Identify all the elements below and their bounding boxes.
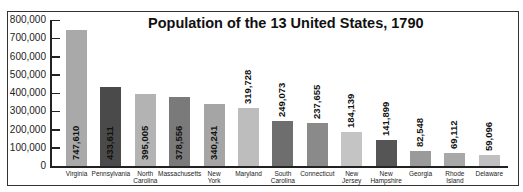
y-tick <box>50 38 60 40</box>
value-label: 340,241 <box>208 126 219 160</box>
y-tick <box>50 147 60 149</box>
value-label: 319,728 <box>242 69 253 103</box>
value-label: 184,139 <box>345 94 356 128</box>
value-label: 747,610 <box>70 126 81 160</box>
y-tick <box>50 20 60 22</box>
y-tick-label: 500,000 <box>2 69 46 80</box>
x-tick-label: Delaware <box>464 170 514 177</box>
y-tick-label: 700,000 <box>2 32 46 43</box>
y-tick-label: 600,000 <box>2 51 46 62</box>
value-label: 395,005 <box>139 126 150 160</box>
y-tick-label: 200,000 <box>2 124 46 135</box>
bar <box>272 121 293 166</box>
y-tick-label: 100,000 <box>2 142 46 153</box>
y-tick-label: 400,000 <box>2 87 46 98</box>
value-label: 82,548 <box>414 118 425 147</box>
value-label: 378,556 <box>173 126 184 160</box>
bar <box>307 123 328 166</box>
y-tick <box>50 93 60 95</box>
x-axis <box>50 166 508 168</box>
value-label: 433,611 <box>104 126 115 160</box>
y-tick <box>50 56 60 58</box>
bar <box>410 151 431 166</box>
y-tick-label: 0 <box>2 160 46 171</box>
y-axis <box>50 20 52 167</box>
y-tick-label: 800,000 <box>2 14 46 25</box>
value-label: 69,112 <box>448 121 459 150</box>
bar <box>444 153 465 166</box>
y-tick <box>50 74 60 76</box>
value-label: 59,096 <box>483 122 494 151</box>
y-tick <box>50 129 60 131</box>
bar <box>238 108 259 166</box>
value-label: 249,073 <box>276 82 287 116</box>
bar <box>341 132 362 166</box>
bar <box>479 155 500 166</box>
value-label: 141,899 <box>380 102 391 136</box>
y-tick-label: 300,000 <box>2 105 46 116</box>
bar <box>376 140 397 166</box>
chart-title: Population of the 13 United States, 1790 <box>148 15 424 31</box>
value-label: 237,655 <box>311 84 322 118</box>
y-tick <box>50 111 60 113</box>
